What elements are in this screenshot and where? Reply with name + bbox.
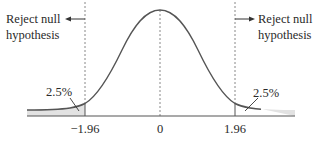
right-reject-label-line2: hypothesis bbox=[258, 28, 312, 42]
right-tail-shading bbox=[235, 104, 295, 117]
right-arrow-icon bbox=[235, 17, 255, 22]
tick-label-1-96: 1.96 bbox=[224, 122, 246, 136]
left-reject-label-line2: hypothesis bbox=[6, 28, 60, 42]
right-reject-label-line1: Reject null bbox=[258, 12, 313, 26]
right-tail-percent-label: 2.5% bbox=[253, 86, 279, 100]
left-tail-percent-label: 2.5% bbox=[46, 85, 72, 99]
tick-label-0: 0 bbox=[157, 122, 163, 136]
tick-label-neg-1-96: −1.96 bbox=[71, 122, 100, 136]
left-arrow-icon bbox=[65, 17, 85, 22]
normal-distribution-figure: −1.96 0 1.96 Reject null hypothesis Reje… bbox=[0, 0, 323, 145]
left-reject-label-line1: Reject null bbox=[6, 12, 61, 26]
